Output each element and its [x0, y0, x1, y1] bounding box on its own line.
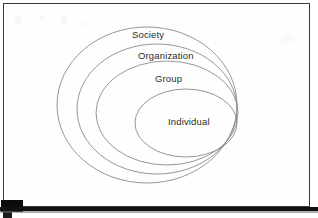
label-society: Society — [132, 29, 164, 40]
label-individual: Individual — [168, 116, 210, 127]
screenshot-root: Society Organization Group Individual — [0, 0, 318, 218]
label-group: Group — [155, 73, 182, 84]
bottom-bar-shadow — [0, 211, 318, 213]
ellipse-organization — [77, 44, 237, 174]
label-organization: Organization — [138, 50, 194, 61]
